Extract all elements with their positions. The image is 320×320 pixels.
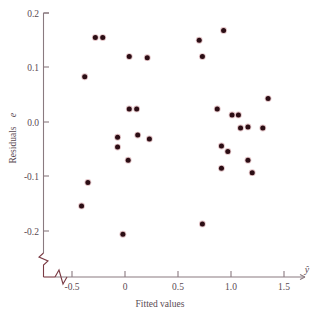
data-point [260, 126, 265, 131]
data-point [145, 55, 150, 60]
y-axis-title: Residuals [8, 126, 18, 163]
data-point [127, 54, 132, 59]
data-point [127, 106, 132, 111]
y-tick-label-2: 0.0 [27, 118, 39, 128]
y-tick-label-1: 0.1 [27, 63, 39, 73]
data-point [82, 74, 87, 79]
data-point [93, 35, 98, 40]
data-point [266, 96, 271, 101]
data-point [134, 106, 139, 111]
residual-plot-figure: 0.2 0.1 0.0 -0.1 -0.2 -0.5 0 0.5 1.0 1.5… [0, 0, 320, 320]
x-tick-label-3: 1.0 [225, 282, 237, 292]
data-point [221, 28, 226, 33]
x-axis-tick-labels: -0.5 0 0.5 1.0 1.5 [64, 282, 290, 292]
x-tick-label-4: 1.5 [278, 282, 290, 292]
data-point [115, 145, 120, 150]
data-point [120, 232, 125, 237]
data-point [147, 136, 152, 141]
data-point [135, 133, 140, 138]
data-point [250, 170, 255, 175]
data-point [245, 158, 250, 163]
data-point [126, 158, 131, 163]
scatter-plot-canvas: 0.2 0.1 0.0 -0.1 -0.2 -0.5 0 0.5 1.0 1.5… [0, 0, 320, 320]
y-axis-break-icon [39, 253, 48, 277]
data-point [100, 35, 105, 40]
data-point [236, 112, 241, 117]
data-point [200, 54, 205, 59]
y-axis-tick-labels: 0.2 0.1 0.0 -0.1 -0.2 [24, 9, 39, 237]
data-point [115, 135, 120, 140]
x-axis-title: Fitted values [136, 299, 185, 309]
data-point [230, 112, 235, 117]
data-point [225, 149, 230, 154]
data-point [197, 38, 202, 43]
data-point [238, 126, 243, 131]
data-point [215, 106, 220, 111]
x-axis-symbol-label: ŷ [304, 264, 310, 275]
data-point [85, 180, 90, 185]
data-point [79, 203, 84, 208]
y-tick-label-3: -0.1 [24, 172, 39, 182]
y-axis-symbol-label: e [7, 112, 18, 117]
data-point [219, 166, 224, 171]
y-tick-label-0: 0.2 [27, 9, 39, 19]
x-tick-label-2: 0.5 [172, 282, 184, 292]
data-point [219, 143, 224, 148]
y-tick-label-4: -0.2 [24, 227, 39, 237]
y-axis [39, 13, 49, 277]
x-tick-label-1: 0 [123, 282, 128, 292]
data-points-layer [78, 27, 271, 238]
y-axis-ticks [44, 13, 50, 231]
x-tick-label-0: -0.5 [64, 282, 79, 292]
data-point [245, 124, 250, 129]
data-point [200, 221, 205, 226]
y-axis-title-group: Residuals e [7, 112, 18, 163]
x-axis-ticks [72, 271, 284, 277]
